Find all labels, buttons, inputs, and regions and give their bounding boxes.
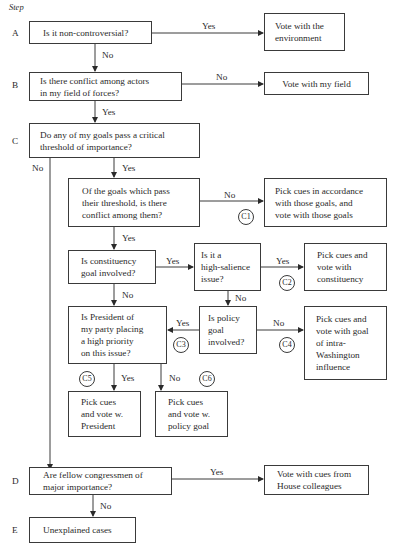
node-d-result-text: Vote with cues from House colleagues [277,468,351,492]
node-e-result-text: Unexplained cases [43,524,112,536]
node-policy-question-text: Is policy goal involved? [208,312,244,348]
node-policy-question: Is policy goal involved? [199,306,257,354]
node-c1-question-text: Of the goals which pass their threshold,… [82,185,170,221]
node-b-question-text: Is there conflict among actors in my fie… [40,75,149,99]
node-a-result-text: Vote with the environment [275,20,324,44]
node-a-question-text: Is it non-controversial? [43,27,128,39]
step-letter-b: B [12,80,18,91]
node-c5-result: Pick cues and vote w. President [68,391,141,437]
edge-label-b-yes: Yes [102,107,115,118]
marker-c5: C5 [79,371,95,387]
step-letter-c: C [12,136,18,147]
node-b-result: Vote with my field [264,72,369,95]
node-constituency-question-text: Is constituency goal involved? [81,255,136,279]
edge-label-c1-no: No [224,190,235,201]
step-letter-d: D [12,476,19,487]
node-a-result: Vote with the environment [264,13,345,51]
node-president-question-text: Is President of my party placing a high … [81,311,143,359]
edge-label-president-yes: Yes [121,373,134,384]
node-d-question: Are fellow congressmen of major importan… [29,467,172,495]
node-c-question-text: Do any of my goals pass a critical thres… [40,129,165,153]
node-c6-result-text: Pick cues and vote w. policy goal [168,396,210,432]
node-c-question: Do any of my goals pass a critical thres… [29,123,200,158]
marker-c6: C6 [199,371,215,387]
node-salience-question-text: Is it a high-salience issue? [201,249,250,285]
edge-label-policy-no: No [273,318,284,329]
node-c4-result-text: Pick cues and vote with goal of intra- W… [316,313,369,373]
node-c6-result: Pick cues and vote w. policy goal [155,391,228,437]
edge-label-d-no: No [100,501,111,512]
marker-c4: C4 [279,337,295,353]
node-d-result: Vote with cues from House colleagues [264,465,369,495]
edge-label-constituency-no: No [122,290,133,301]
edge-label-b-no: No [216,72,227,83]
edge-label-a-no: No [102,50,113,61]
marker-c3: C3 [173,337,189,353]
edge-label-constituency-yes: Yes [166,256,179,267]
node-c1-result: Pick cues in accordance with those goals… [264,178,387,227]
edge-label-a-yes: Yes [202,21,215,32]
edge-label-salience-yes: Yes [276,256,289,267]
node-b-result-text: Vote with my field [282,78,350,90]
marker-c1: C1 [238,209,254,225]
node-c1-question: Of the goals which pass their threshold,… [68,178,200,227]
node-president-question: Is President of my party placing a high … [68,306,167,364]
step-letter-a: A [12,28,19,39]
step-column-title: Step [9,2,24,13]
node-c2-result: Pick cues and vote with constituency [304,243,387,291]
flowchart-canvas: Step A B C D E Is it non-controversial? … [0,0,397,551]
node-salience-question: Is it a high-salience issue? [194,243,261,291]
step-letter-e: E [12,525,18,536]
edge-label-c-no: No [32,163,43,174]
marker-c2: C2 [279,275,295,291]
node-d-question-text: Are fellow congressmen of major importan… [43,469,143,493]
node-constituency-question: Is constituency goal involved? [68,250,156,284]
edge-label-c1-yes: Yes [122,233,135,244]
node-c5-result-text: Pick cues and vote w. President [81,396,123,432]
edge-label-c-yes: Yes [122,163,135,174]
edge-label-policy-yes: Yes [176,318,189,329]
node-c4-result: Pick cues and vote with goal of intra- W… [304,306,387,380]
node-c2-result-text: Pick cues and vote with constituency [317,249,368,285]
node-c1-result-text: Pick cues in accordance with those goals… [275,185,363,221]
edge-label-d-yes: Yes [210,467,223,478]
node-e-result: Unexplained cases [29,517,136,543]
edge-label-salience-no: No [235,293,246,304]
edge-label-president-no: No [169,373,180,384]
node-a-question: Is it non-controversial? [29,21,152,44]
node-b-question: Is there conflict among actors in my fie… [29,72,182,101]
